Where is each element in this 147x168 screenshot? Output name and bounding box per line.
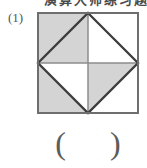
answer-open-paren: ( bbox=[55, 127, 66, 159]
worksheet-figure-page: 演算大师练习题 (1) bbox=[0, 0, 147, 168]
figure-svg bbox=[34, 9, 142, 117]
answer-blank-field[interactable] bbox=[66, 133, 110, 153]
answer-bracket[interactable]: ( ) bbox=[34, 124, 142, 162]
clipped-heading-text: 演算大师练习题 bbox=[44, 0, 147, 7]
item-number-label: (1) bbox=[8, 10, 23, 26]
clipped-heading-strip: 演算大师练习题 bbox=[0, 0, 147, 7]
figure-square-with-inscribed-diamond bbox=[34, 9, 142, 117]
answer-close-paren: ) bbox=[110, 127, 121, 159]
